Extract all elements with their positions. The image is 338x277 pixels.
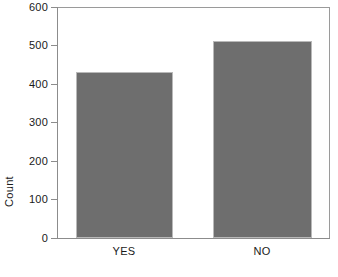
x-axis-label-yes: YES [94,246,154,257]
x-axis-label-no: NO [232,246,292,257]
bar-chart: 600 500 400 300 200 100 0 YES NO Count [0,0,338,277]
bar-yes[interactable] [76,72,173,238]
bar-no[interactable] [213,41,312,238]
y-axis-title: Count [4,162,15,222]
bars-layer [0,0,338,277]
